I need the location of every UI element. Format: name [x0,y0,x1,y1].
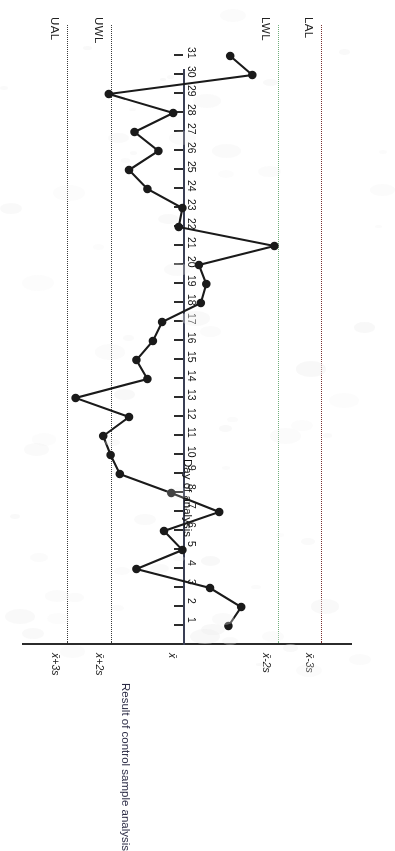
scan-speckle [219,425,232,432]
data-point [158,318,167,327]
scan-speckle [158,214,179,224]
scan-speckle [167,75,174,79]
scan-speckle [311,599,339,613]
scan-speckle [283,644,298,651]
data-point [237,603,246,612]
scan-speckle [32,433,56,445]
scan-speckle [83,46,92,50]
scan-speckle [130,151,137,155]
scan-speckle [379,150,387,154]
scan-speckle [114,389,136,400]
data-point [130,128,139,137]
data-point [174,223,183,232]
data-point [248,71,257,80]
scan-speckle [114,567,130,575]
data-point [116,470,125,479]
data-point [178,204,187,213]
scan-speckle [296,361,327,376]
data-point [178,546,187,555]
scan-speckle [270,428,301,444]
scan-speckle [30,553,48,562]
data-point [132,565,141,574]
data-point [206,584,215,593]
data-point [125,166,134,175]
scan-speckle [0,86,8,90]
data-point [106,451,115,460]
data-point [143,375,152,384]
scan-speckle [53,185,85,201]
scan-speckle [169,131,196,145]
scan-speckle [60,645,86,658]
data-point [125,413,134,422]
scan-speckle [354,322,374,332]
scan-speckle [150,564,169,573]
scan-speckle [296,664,322,677]
scan-speckle [111,605,124,611]
data-point [132,356,141,365]
scan-speckle [47,613,70,625]
data-point [169,109,178,118]
scan-speckle [160,78,166,81]
data-point [71,394,80,403]
scan-speckle [93,244,104,249]
scan-speckle [200,326,221,337]
data-point [154,147,163,156]
scan-speckle [262,631,284,642]
data-point [149,337,158,346]
scan-speckle [227,417,237,422]
scan-speckle [370,184,395,196]
data-point [226,52,235,61]
data-point [270,242,279,251]
scan-speckle [193,94,221,108]
scan-speckle [129,108,136,111]
scan-speckle [212,144,241,158]
scan-speckle [301,538,314,545]
data-point [215,508,224,517]
scan-speckle [323,433,332,438]
scan-speckle [123,335,135,341]
scan-speckle [95,344,125,359]
data-point [197,299,206,308]
scan-speckle [121,158,130,162]
scan-speckle [181,311,210,326]
scan-speckle [212,613,235,624]
scan-speckle [22,628,43,639]
scan-speckle [190,629,220,644]
scan-speckle [375,225,383,229]
scan-speckle [173,556,185,562]
data-point [160,527,169,536]
scan-speckle [166,487,190,499]
data-point [143,185,152,194]
data-point [195,261,204,270]
data-point [104,90,113,99]
scan-speckle [220,9,246,22]
data-point [202,280,211,289]
scan-speckle [10,514,20,519]
scan-speckle [201,556,220,566]
